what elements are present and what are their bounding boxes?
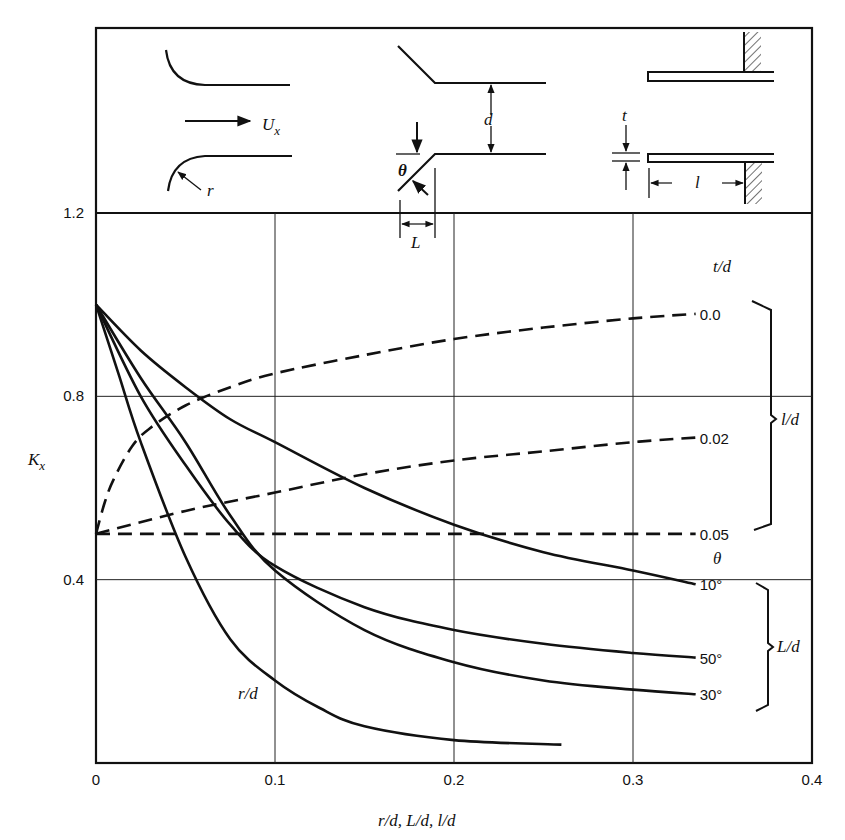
series-end-label: 0.0 (700, 306, 721, 323)
reentrant-inlet-diagram (612, 32, 774, 204)
x-tick-label: 0.3 (623, 771, 644, 788)
ld-bracket-label: l/d (781, 410, 799, 429)
loss-coefficient-chart: Ux r d θ L t l 00.10.20.30.40.40.81.2 (0, 0, 845, 840)
series-end-label: 0.02 (700, 430, 729, 447)
series-end-label: 0.05 (700, 526, 729, 543)
angle-label: θ (398, 161, 407, 180)
thickness-label: t (622, 106, 628, 125)
series--50- (96, 305, 696, 658)
diameter-label: d (484, 110, 493, 129)
series-t-d-0-02 (96, 438, 696, 534)
series-end-label: 10° (700, 576, 723, 593)
x-tick-label: 0.4 (802, 771, 823, 788)
x-tick-label: 0.1 (265, 771, 286, 788)
y-tick-label: 0.8 (63, 387, 84, 404)
td-legend-header: t/d (713, 257, 731, 276)
series-labels: 0.00.020.0510°50°30° (700, 306, 729, 703)
grid-lines (96, 213, 812, 763)
x-tick-label: 0 (92, 771, 100, 788)
x-tick-label: 0.2 (444, 771, 465, 788)
length-L-label: L (410, 233, 420, 252)
rd-curve-label: r/d (238, 684, 258, 703)
y-axis-label: Kx (27, 450, 45, 473)
x-axis-label: r/d, L/d, l/d (378, 811, 456, 830)
length-l-label: l (695, 173, 700, 192)
y-tick-label: 0.4 (63, 571, 84, 588)
velocity-label: Ux (262, 115, 280, 138)
theta-legend-header: θ (713, 549, 721, 568)
y-tick-label: 1.2 (63, 204, 84, 221)
series-end-label: 30° (700, 686, 723, 703)
series--30- (96, 305, 696, 695)
series-end-label: 50° (700, 650, 723, 667)
radius-label: r (207, 181, 214, 200)
legend-brackets (752, 301, 776, 711)
chamfered-inlet-diagram (396, 46, 546, 238)
data-series (96, 305, 696, 745)
Ld-bracket-label: L/d (776, 637, 800, 656)
